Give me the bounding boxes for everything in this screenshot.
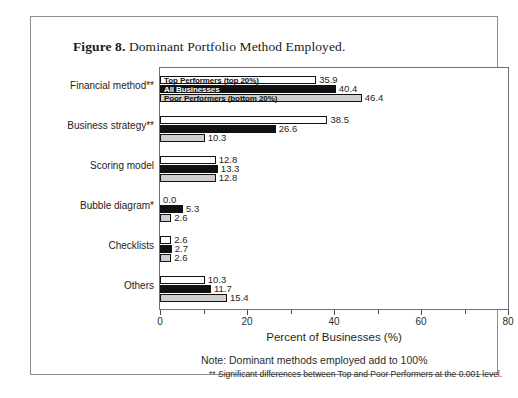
bar-value-label: 2.6 [174,252,187,264]
bar-row: 2.6 [160,254,508,262]
category-label: Others [4,280,154,292]
bar-row: 11.7 [160,285,508,293]
plot-area: Financial method**Top Performers (top 20… [160,68,508,309]
category-label: Business strategy** [4,120,154,132]
x-axis-tick-labels: 020406080 [160,316,508,330]
bar-row: 2.6 [160,214,508,222]
bar [160,174,216,182]
note-line-2: ** Significant differences between Top a… [209,369,502,379]
bar-row: 13.3 [160,165,508,173]
figure-caption: Figure 8. Dominant Portfolio Method Empl… [73,39,345,55]
bar [160,156,216,164]
bar-value-label: 46.4 [365,92,384,104]
category-label: Bubble diagram* [4,200,154,212]
x-tick-label: 80 [502,316,513,328]
bar-group: Checklists2.62.72.6 [160,236,508,264]
x-tick-major [508,310,509,315]
figure-frame: Figure 8. Dominant Portfolio Method Empl… [30,16,498,375]
figure-caption-label: Figure 8. [73,39,125,54]
bar [160,294,227,302]
category-label: Financial method** [4,80,154,92]
x-tick-major [247,310,248,315]
bar-group: Others10.311.715.4 [160,276,508,304]
x-axis-title: Percent of Businesses (%) [159,331,509,343]
bar-row: 12.8 [160,174,508,182]
bar-row: 10.3 [160,276,508,284]
x-tick-major [160,310,161,315]
bar-row: 2.7 [160,245,508,253]
x-tick-major [334,310,335,315]
bar [160,245,172,253]
category-label: Scoring model [4,160,154,172]
bar: All Businesses [160,85,336,93]
bar [160,254,171,262]
bar [160,236,171,244]
x-tick-minor [291,310,292,314]
bar [160,116,327,124]
x-tick-label: 20 [241,316,252,328]
bar [160,276,205,284]
note-line-1: Note: Dominant methods employed add to 1… [201,354,427,366]
bar-group: Bubble diagram*0.05.32.6 [160,196,508,224]
bar-value-label: 15.4 [230,292,249,304]
bar [160,214,171,222]
bar: Poor Performers (bottom 20%) [160,94,362,102]
bar [160,285,211,293]
x-tick-minor [378,310,379,314]
x-tick-label: 0 [157,316,163,328]
legend-item-2: Poor Performers (bottom 20%) [164,94,277,104]
bar-row: All Businesses40.4 [160,85,508,93]
figure-caption-text: Dominant Portfolio Method Employed. [125,39,345,54]
bar [160,165,218,173]
x-tick-major [421,310,422,315]
bar-row: 0.0 [160,196,508,204]
x-tick-label: 40 [328,316,339,328]
bar: Top Performers (top 20%) [160,76,316,84]
bar-group: Business strategy**38.526.610.3 [160,116,508,144]
bar-row: 10.3 [160,134,508,142]
bar-value-label: 12.8 [219,172,238,184]
bar-row: Poor Performers (bottom 20%)46.4 [160,94,508,102]
bar-row: 5.3 [160,205,508,213]
x-tick-minor [204,310,205,314]
x-tick-label: 60 [415,316,426,328]
bar [160,134,205,142]
bar-value-label: 10.3 [208,132,227,144]
bar-row: 15.4 [160,294,508,302]
bar-row: 2.6 [160,236,508,244]
x-tick-minor [465,310,466,314]
bar-row: Top Performers (top 20%)35.9 [160,76,508,84]
category-label: Checklists [4,240,154,252]
bar-group: Scoring model12.813.312.8 [160,156,508,184]
bar-row: 12.8 [160,156,508,164]
bar-group: Financial method**Top Performers (top 20… [160,76,508,104]
bar-row: 38.5 [160,116,508,124]
bar-value-label: 2.6 [174,212,187,224]
